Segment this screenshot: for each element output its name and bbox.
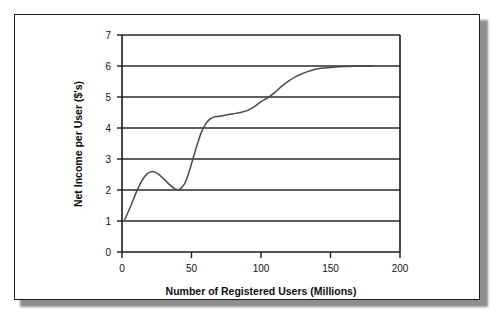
x-axis-ticks <box>122 252 400 258</box>
figure-root: 7 6 5 4 3 2 1 0 0 50 100 150 200 Net Inc… <box>0 0 504 323</box>
chart-canvas: 7 6 5 4 3 2 1 0 0 50 100 150 200 Net Inc… <box>14 14 480 300</box>
y-tick-label-0: 0 <box>105 247 111 258</box>
y-tick-label-2: 2 <box>105 185 111 196</box>
y-tick-label-3: 3 <box>105 154 111 165</box>
y-tick-label-6: 6 <box>105 61 111 72</box>
data-series-line <box>125 66 372 219</box>
x-tick-label-0: 0 <box>119 263 125 274</box>
x-tick-label-100: 100 <box>253 263 270 274</box>
gridlines-horizontal <box>122 35 400 221</box>
x-tick-label-200: 200 <box>392 263 409 274</box>
x-axis-title: Number of Registered Users (Millions) <box>166 285 357 297</box>
y-tick-label-4: 4 <box>105 123 111 134</box>
x-tick-label-150: 150 <box>322 263 339 274</box>
y-tick-label-1: 1 <box>105 216 111 227</box>
y-axis-title: Net Income per User ($'s) <box>72 81 84 207</box>
x-tick-labels: 0 50 100 150 200 <box>119 263 409 274</box>
y-tick-label-5: 5 <box>105 92 111 103</box>
x-tick-label-50: 50 <box>186 263 198 274</box>
y-tick-labels: 7 6 5 4 3 2 1 0 <box>105 30 111 258</box>
y-tick-label-7: 7 <box>105 30 111 41</box>
